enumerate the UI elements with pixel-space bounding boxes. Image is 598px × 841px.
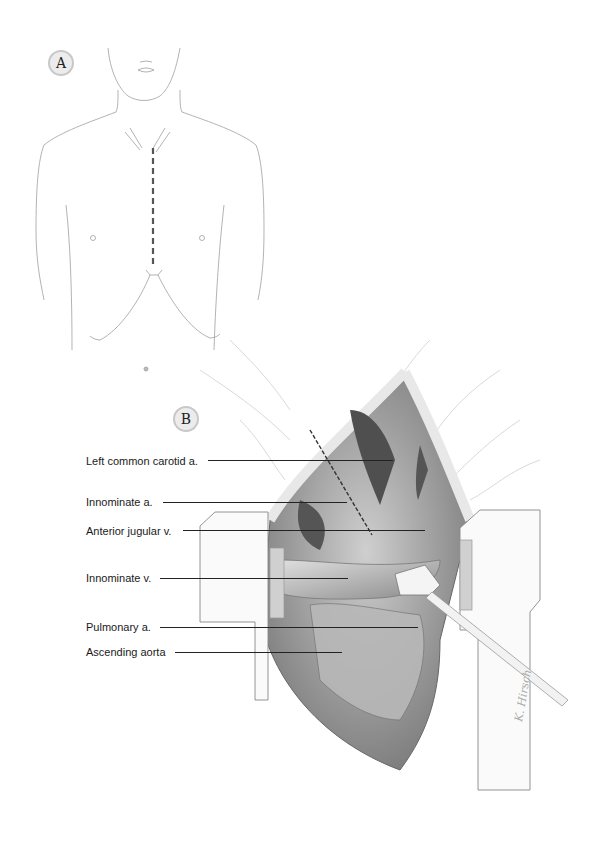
label-pulmonary-artery: Pulmonary a. (86, 621, 151, 633)
leader-innominate-artery (163, 502, 347, 503)
label-innominate-artery: Innominate a. (86, 496, 153, 508)
label-anterior-jugular-vein: Anterior jugular v. (86, 525, 171, 537)
label-left-common-carotid-artery: Left common carotid a. (86, 455, 198, 467)
leader-pulmonary-artery (160, 627, 418, 628)
leader-ascending-aorta (175, 652, 342, 653)
label-ascending-aorta: Ascending aorta (86, 646, 166, 658)
leader-left-common-carotid-artery (208, 460, 393, 461)
panel-b-badge: B (173, 406, 199, 432)
panel-b-surgical-field: K. Hirsch (0, 0, 598, 841)
surgical-illustration: A (0, 0, 598, 841)
leader-innominate-vein (160, 578, 348, 579)
leader-anterior-jugular-vein (183, 530, 425, 531)
label-innominate-vein: Innominate v. (86, 572, 151, 584)
